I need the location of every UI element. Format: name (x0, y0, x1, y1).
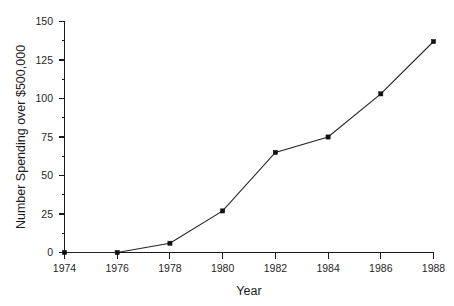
y-tick-labels: 0 25 50 75 100 125 150 (35, 15, 53, 258)
y-tick-label: 100 (35, 92, 53, 104)
data-point (379, 92, 383, 96)
chart-figure: 0 25 50 75 100 125 150 1974 1976 1978 19… (0, 0, 454, 306)
data-point (115, 250, 119, 254)
y-tick-label: 50 (41, 169, 53, 181)
x-tick-label: 1978 (158, 262, 182, 274)
data-point (221, 209, 225, 213)
y-tick-label: 0 (47, 246, 53, 258)
y-tick-label: 75 (41, 131, 53, 143)
x-tick-label: 1988 (422, 262, 446, 274)
data-point (326, 135, 330, 139)
x-tick-label: 1980 (211, 262, 235, 274)
data-point (431, 39, 435, 43)
x-tick-label: 1986 (369, 262, 393, 274)
x-tick-label: 1982 (264, 262, 288, 274)
data-point (168, 241, 172, 245)
y-tick-label: 125 (35, 54, 53, 66)
data-point (273, 150, 277, 154)
y-tick-label: 150 (35, 15, 53, 27)
line-chart: 0 25 50 75 100 125 150 1974 1976 1978 19… (0, 0, 454, 306)
y-tick-label: 25 (41, 208, 53, 220)
x-tick-label: 1976 (106, 262, 130, 274)
x-tick-label: 1984 (316, 262, 340, 274)
x-tick-labels: 1974 1976 1978 1980 1982 1984 1986 1988 (53, 262, 446, 274)
data-series-markers (62, 39, 435, 254)
axis-spines (65, 22, 434, 253)
y-tick-marks (59, 22, 65, 253)
data-point (62, 250, 66, 254)
x-tick-label: 1974 (53, 262, 77, 274)
x-tick-marks (65, 253, 434, 259)
y-axis-title: Number Spending over $500,000 (14, 45, 28, 229)
data-series-line (65, 42, 434, 253)
x-axis-title: Year (236, 284, 261, 298)
